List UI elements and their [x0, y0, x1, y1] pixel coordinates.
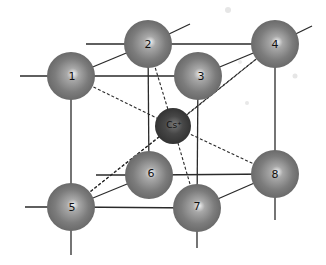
ion-4: 4	[251, 20, 299, 68]
cscl-unit-cell-diagram: 2 4 6 8 Cs⁺ 1 3 5 7	[0, 0, 326, 265]
ion-label: 3	[198, 70, 205, 83]
ion-label: 5	[69, 201, 76, 214]
ion-6: 6	[125, 151, 173, 199]
ion-8: 8	[251, 150, 299, 198]
ion-7: 7	[173, 184, 221, 232]
cs-ion-label: Cs⁺	[166, 120, 182, 130]
ion-label: 2	[145, 38, 152, 51]
ion-1: 1	[47, 52, 95, 100]
cesium-ion: Cs⁺	[155, 108, 191, 144]
ion-label: 7	[194, 200, 201, 213]
ion-label: 1	[69, 70, 76, 83]
ion-5: 5	[47, 183, 95, 231]
ion-label: 4	[272, 38, 279, 51]
ion-2: 2	[124, 20, 172, 68]
ion-label: 6	[148, 167, 155, 180]
ion-label: 8	[272, 168, 279, 181]
ion-3: 3	[174, 52, 222, 100]
